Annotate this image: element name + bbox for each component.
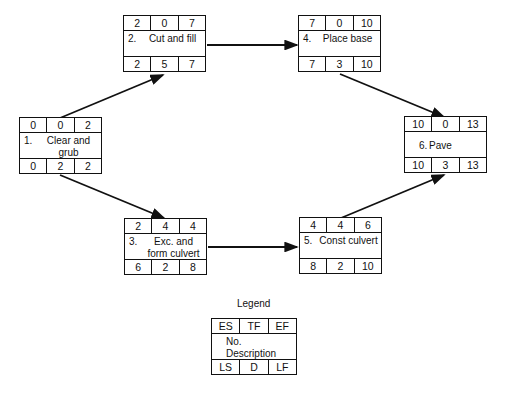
- node-tf: 4: [151, 219, 178, 233]
- legend-title: Legend: [237, 298, 270, 309]
- node-ef: 4: [179, 219, 206, 233]
- node-ls: 2: [124, 57, 150, 71]
- node-description: Place base: [317, 33, 378, 45]
- node-description: Clear and grub: [38, 135, 99, 159]
- node-d: 3: [325, 57, 352, 71]
- node-ls: 8: [300, 259, 326, 273]
- node-tf: 4: [326, 218, 353, 232]
- legend-ef: EF: [268, 319, 296, 333]
- node-tf: 0: [46, 118, 73, 132]
- node-description: Cut and fill: [142, 33, 203, 45]
- node-description: Pave: [429, 140, 452, 152]
- node-2: 2 0 7 2. Cut and fill 2 5 7: [123, 15, 206, 72]
- node-lf: 2: [74, 159, 101, 173]
- node-ls: 6: [125, 260, 151, 274]
- legend-ls: LS: [212, 360, 239, 374]
- node-tf: 0: [150, 16, 177, 30]
- node-ls: 0: [20, 159, 46, 173]
- node-ls: 7: [299, 57, 325, 71]
- edge-5-6: [341, 175, 444, 218]
- node-es: 2: [125, 219, 151, 233]
- node-6: 10 0 13 6. Pave 10 3 13: [404, 116, 487, 173]
- edge-4-6: [340, 74, 444, 117]
- legend-number: No.: [226, 336, 242, 348]
- node-3: 2 4 4 3. Exc. and form culvert 6 2 8: [124, 218, 207, 275]
- node-lf: 13: [459, 158, 486, 172]
- legend-lf: LF: [268, 360, 296, 374]
- edge-1-3: [60, 175, 164, 218]
- node-es: 2: [124, 16, 150, 30]
- legend-tf: TF: [239, 319, 267, 333]
- node-lf: 7: [178, 57, 205, 71]
- node-es: 4: [300, 218, 326, 232]
- node-tf: 0: [431, 117, 458, 131]
- node-number: 4.: [303, 33, 311, 45]
- legend-d: D: [239, 360, 267, 374]
- node-description: Exc. and form culvert: [143, 236, 204, 260]
- node-es: 7: [299, 16, 325, 30]
- node-ls: 10: [405, 158, 431, 172]
- node-number: 1.: [24, 135, 32, 147]
- node-4: 7 0 10 4. Place base 7 3 10: [298, 15, 381, 72]
- node-ef: 6: [354, 218, 381, 232]
- node-lf: 8: [179, 260, 206, 274]
- legend-box: ES TF EF No. Description LS D LF: [211, 318, 297, 375]
- edge-1-2: [60, 75, 163, 118]
- node-lf: 10: [353, 57, 380, 71]
- legend-description: Description: [226, 348, 294, 360]
- node-number: 3.: [129, 236, 137, 248]
- node-d: 2: [46, 159, 73, 173]
- node-ef: 10: [353, 16, 380, 30]
- legend-es: ES: [212, 319, 239, 333]
- node-ef: 7: [178, 16, 205, 30]
- node-d: 2: [326, 259, 353, 273]
- node-es: 0: [20, 118, 46, 132]
- node-ef: 13: [459, 117, 486, 131]
- node-tf: 0: [325, 16, 352, 30]
- node-d: 3: [431, 158, 458, 172]
- node-d: 2: [151, 260, 178, 274]
- node-1: 0 0 2 1. Clear and grub 0 2 2: [19, 117, 102, 174]
- node-5: 4 4 6 5. Const culvert 8 2 10: [299, 217, 382, 274]
- node-d: 5: [150, 57, 177, 71]
- node-lf: 10: [354, 259, 381, 273]
- node-ef: 2: [74, 118, 101, 132]
- node-number: 5.: [304, 235, 312, 247]
- node-number: 2.: [128, 33, 136, 45]
- node-number: 6.: [419, 140, 427, 152]
- network-diagram: 0 0 2 1. Clear and grub 0 2 2 2 0 7 2. C…: [0, 0, 508, 395]
- node-description: Const culvert: [318, 235, 379, 247]
- node-es: 10: [405, 117, 431, 131]
